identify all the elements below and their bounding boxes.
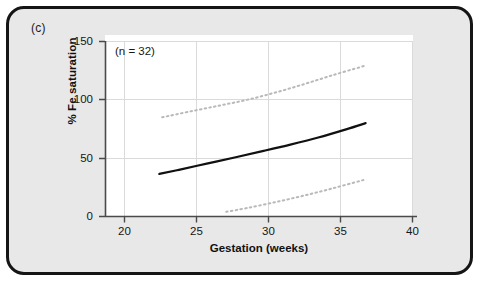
y-axis-title: % Fe saturation — [66, 11, 78, 151]
xtick-label-40: 40 — [393, 225, 433, 237]
xtick-label-30: 30 — [249, 225, 289, 237]
series-fitted-mean — [159, 123, 365, 174]
data-series-group — [159, 65, 365, 211]
axis-lines — [105, 41, 417, 217]
x-axis-title: Gestation (weeks) — [105, 242, 413, 254]
xtick-label-35: 35 — [321, 225, 361, 237]
xtick-label-25: 25 — [177, 225, 217, 237]
series-lower-reference-limit — [226, 179, 365, 212]
ytick-label-0: 0 — [53, 210, 93, 222]
figure-frame: (c) — [6, 6, 473, 275]
sample-size-text: (n = 32) — [115, 45, 155, 57]
xtick-label-20: 20 — [105, 225, 145, 237]
x-tick-marks — [125, 217, 413, 223]
grid-lines — [105, 41, 413, 216]
sample-size-annotation: (n = 32) — [115, 45, 155, 57]
series-upper-reference-limit — [162, 65, 365, 117]
y-tick-marks — [99, 42, 105, 217]
ytick-label-50: 50 — [53, 152, 93, 164]
